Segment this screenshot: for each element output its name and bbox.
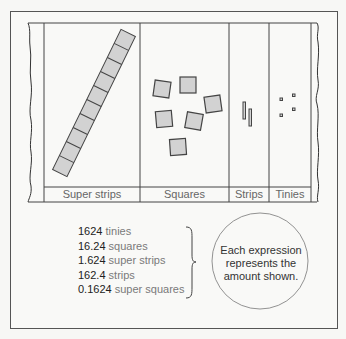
expression-number: 1.624 xyxy=(78,254,106,266)
expression-unit: strips xyxy=(109,269,135,281)
expression-list: 1624 tinies 16.24 squares 1.624 super st… xyxy=(78,224,184,297)
tinies-group xyxy=(280,94,295,117)
column-label-tinies: Tinies xyxy=(269,187,311,202)
curly-brace xyxy=(186,227,196,298)
wavy-left-edge xyxy=(28,23,32,202)
tiny-block xyxy=(280,98,283,101)
expression-number: 0.1624 xyxy=(78,283,112,295)
expression-item: 1624 tinies xyxy=(78,224,184,239)
tiny-block xyxy=(293,108,296,111)
squares-group xyxy=(153,77,222,156)
super-strip xyxy=(53,29,136,176)
square-block xyxy=(180,77,196,93)
column-label-squares: Squares xyxy=(140,187,229,202)
square-block xyxy=(204,95,222,113)
square-block xyxy=(169,138,186,155)
tiny-block xyxy=(293,94,296,97)
expression-number: 162.4 xyxy=(78,269,106,281)
expression-number: 16.24 xyxy=(78,240,106,252)
wavy-right-edge xyxy=(316,23,318,202)
tiny-block xyxy=(280,114,283,117)
expression-item: 16.24 squares xyxy=(78,239,184,254)
square-block xyxy=(153,80,171,98)
square-block xyxy=(155,110,172,127)
column-label-strips: Strips xyxy=(229,187,269,202)
expression-unit: super strips xyxy=(109,254,166,266)
expression-unit: tinies xyxy=(106,225,132,237)
expression-item: 162.4 strips xyxy=(78,268,184,283)
callout-line: Each expression xyxy=(216,244,306,257)
expression-item: 1.624 super strips xyxy=(78,253,184,268)
expression-unit: squares xyxy=(109,240,148,252)
callout-line: represents the xyxy=(216,257,306,270)
callout-line: amount shown. xyxy=(216,270,306,283)
square-block xyxy=(185,112,204,131)
expression-unit: super squares xyxy=(115,283,185,295)
expression-number: 1624 xyxy=(78,225,102,237)
strip-block xyxy=(249,109,252,126)
strip-block xyxy=(243,102,246,119)
callout-text: Each expression represents the amount sh… xyxy=(216,244,306,283)
column-label-super-strips: Super strips xyxy=(44,187,140,202)
expression-item: 0.1624 super squares xyxy=(78,282,184,297)
strips-group xyxy=(243,102,252,126)
